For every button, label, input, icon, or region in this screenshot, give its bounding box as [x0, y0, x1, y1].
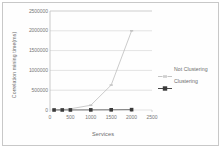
legend-label-clustering: Clustering	[174, 78, 198, 84]
x-axis-title: Services	[48, 131, 158, 137]
legend-item-not-clustering[interactable]: Not Clustering	[158, 63, 220, 75]
legend-marker-clustering	[158, 78, 172, 85]
chart-legend: Not Clustering Clustering	[158, 63, 220, 87]
legend-marker-not-clustering	[158, 66, 172, 73]
y-axis-title: Correlation mining time(ms)	[11, 15, 17, 115]
x-tick-label: 2500	[139, 115, 165, 120]
legend-label-not-clustering: Not Clustering	[174, 66, 208, 72]
legend-item-clustering[interactable]: Clustering	[158, 75, 220, 87]
